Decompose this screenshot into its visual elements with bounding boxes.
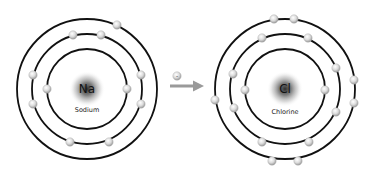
electron xyxy=(69,31,77,39)
name-chlorine: Chlorine xyxy=(271,108,298,116)
electron-charge-label: - xyxy=(176,72,178,79)
electron xyxy=(43,85,51,93)
electron xyxy=(258,34,266,42)
electron-transfer: - xyxy=(170,72,204,92)
atom-chlorine: Cl Chlorine xyxy=(211,15,358,165)
electron xyxy=(305,138,313,146)
symbol-chlorine: Cl xyxy=(279,82,291,96)
electron xyxy=(241,86,249,94)
electron xyxy=(268,157,276,165)
symbol-sodium: Na xyxy=(79,82,95,96)
electron xyxy=(211,96,219,104)
electron xyxy=(29,71,37,79)
electron xyxy=(230,104,238,112)
electron xyxy=(105,138,113,146)
electron xyxy=(137,100,145,108)
name-sodium: Sodium xyxy=(75,106,100,114)
atom-sodium: Na Sodium xyxy=(17,19,157,159)
electron xyxy=(66,138,74,146)
electron xyxy=(350,76,358,84)
electron xyxy=(113,21,121,29)
electron xyxy=(332,108,340,116)
electron xyxy=(97,31,105,39)
electron xyxy=(258,138,266,146)
electron xyxy=(321,86,329,94)
electron xyxy=(294,157,302,165)
electron xyxy=(229,70,237,78)
electron xyxy=(304,34,312,42)
arrow-right-icon xyxy=(170,81,204,92)
ionic-bond-diagram: Na Sodium - Cl Chlorine xyxy=(0,0,382,182)
electron xyxy=(137,71,145,79)
electron xyxy=(332,64,340,72)
electron xyxy=(123,85,131,93)
electron xyxy=(270,15,278,23)
electron xyxy=(290,15,298,23)
electron xyxy=(350,99,358,107)
electron xyxy=(29,100,37,108)
